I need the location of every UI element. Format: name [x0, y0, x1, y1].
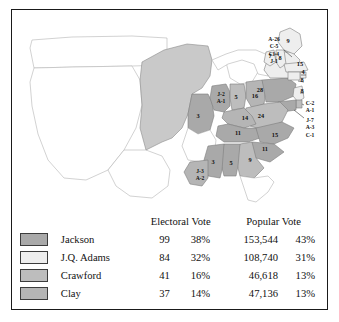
territory-florida [240, 176, 274, 202]
map-label-alabama: 5 [229, 159, 232, 166]
split-line: Cl-4 [269, 51, 279, 57]
map-label-mississippi: 3 [211, 158, 214, 165]
popular-percent: 31% [278, 248, 327, 266]
state-missouri [188, 94, 214, 134]
us-map-svg: 978154882824151195311141653 A-26C-5Cl-4J… [12, 10, 327, 215]
popular-votes: 46,618 [220, 266, 278, 284]
map-label-north-carolina: 15 [272, 131, 278, 138]
table-row: Jackson9938%153,54443% [12, 230, 327, 248]
header-swatch-spacer [12, 216, 55, 230]
split-line: A-26 [268, 36, 280, 42]
candidate-name: Jackson [55, 230, 142, 248]
map-label-missouri: 3 [196, 112, 199, 119]
split-line: A-3 [306, 124, 315, 130]
legend-color-swatch [20, 251, 48, 264]
legend-color-swatch [20, 287, 48, 300]
map-label-connecticut: 8 [300, 76, 303, 83]
candidate-name: Crawford [55, 266, 142, 284]
map-label-south-carolina: 11 [262, 145, 268, 152]
split-line: C-2 [306, 100, 315, 106]
popular-votes: 153,544 [220, 230, 278, 248]
map-split-label-delaware: C-2A-1 [306, 100, 315, 113]
map-split-label-maryland: J-7A-3C-1 [306, 117, 315, 138]
popular-percent: 43% [278, 230, 327, 248]
split-line: J-1 [270, 58, 278, 64]
header-electoral-vote: Electoral Vote [141, 216, 220, 230]
table-row: J.Q. Adams8432%108,74031% [12, 248, 327, 266]
candidate-name: Clay [55, 285, 142, 303]
map-label-indiana: 5 [234, 93, 237, 100]
table-row: Clay3714%47,13613% [12, 285, 327, 303]
map-label-kentucky: 14 [242, 114, 249, 121]
state-pennsylvania [262, 78, 296, 102]
map-container: 978154882824151195311141653 A-26C-5Cl-4J… [12, 10, 327, 215]
map-label-virginia: 24 [258, 112, 265, 119]
map-split-label-louisiana: J-3A-2 [196, 168, 205, 181]
popular-votes: 47,136 [220, 285, 278, 303]
map-label-new-jersey: 8 [300, 87, 303, 94]
popular-percent: 13% [278, 285, 327, 303]
electoral-votes: 37 [141, 285, 169, 303]
map-label-georgia: 9 [248, 156, 251, 163]
electoral-percent: 14% [170, 285, 220, 303]
electoral-votes: 99 [141, 230, 169, 248]
map-label-tennessee: 11 [235, 129, 241, 136]
map-label-maine: 9 [286, 37, 289, 44]
electoral-percent: 16% [170, 266, 220, 284]
results-table-head: Electoral Vote Popular Vote [12, 216, 327, 230]
electoral-percent: 38% [170, 230, 220, 248]
legend-swatch-cell [12, 285, 55, 303]
split-line: C-1 [306, 132, 315, 138]
candidate-name: J.Q. Adams [55, 248, 142, 266]
leader-line-maryland [294, 110, 304, 118]
legend-swatch-cell [12, 266, 55, 284]
electoral-percent: 32% [170, 248, 220, 266]
state-indiana [230, 84, 246, 110]
header-popular-vote: Popular Vote [220, 216, 327, 230]
map-label-ohio: 16 [252, 92, 258, 99]
split-line: J-2 [217, 91, 225, 97]
legend-swatch-cell [12, 248, 55, 266]
state-connecticut [288, 72, 300, 80]
split-line: J-3 [196, 168, 204, 174]
table-row: Crawford4116%46,61813% [12, 266, 327, 284]
split-line: C-5 [270, 43, 279, 49]
map-label-massachusetts: 15 [297, 60, 303, 67]
legend-color-swatch [20, 233, 48, 246]
electoral-votes: 84 [141, 248, 169, 266]
results-table: Electoral Vote Popular Vote Jackson9938%… [12, 216, 327, 303]
results-table-body: Jackson9938%153,54443%J.Q. Adams8432%108… [12, 230, 327, 303]
split-line: J-7 [306, 117, 314, 123]
split-line: A-1 [217, 98, 226, 104]
popular-votes: 108,740 [220, 248, 278, 266]
popular-percent: 13% [278, 266, 327, 284]
header-candidate-spacer [55, 216, 142, 230]
state-delaware [296, 100, 302, 108]
results-table-container: Electoral Vote Popular Vote Jackson9938%… [12, 216, 327, 302]
legend-swatch-cell [12, 230, 55, 248]
election-map-figure: 978154882824151195311141653 A-26C-5Cl-4J… [0, 0, 339, 322]
split-line: A-2 [196, 175, 205, 181]
split-line: A-1 [306, 107, 315, 113]
electoral-votes: 41 [141, 266, 169, 284]
map-split-label-illinois: J-2A-1 [217, 91, 226, 104]
results-header-row: Electoral Vote Popular Vote [12, 216, 327, 230]
legend-color-swatch [20, 269, 48, 282]
